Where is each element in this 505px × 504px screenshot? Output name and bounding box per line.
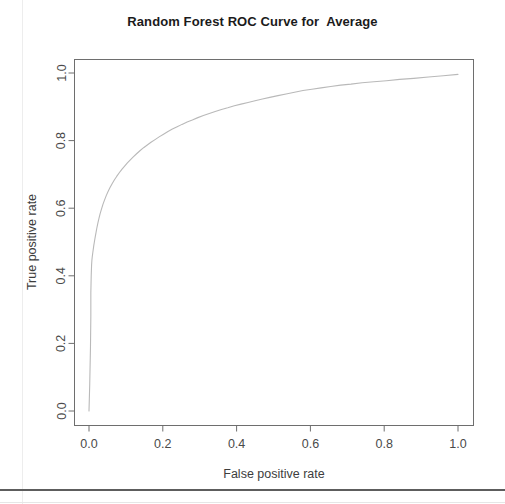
figure-canvas: Random Forest ROC Curve for Average 0.00… bbox=[0, 0, 505, 504]
y-tick-label: 1.0 bbox=[55, 64, 69, 81]
y-tick-label: 0.6 bbox=[55, 199, 69, 216]
y-tick-label: 0.4 bbox=[55, 267, 69, 284]
x-tick-label: 0.2 bbox=[154, 437, 171, 451]
page-bottom-rule-secondary bbox=[0, 502, 505, 503]
y-axis-ticks: 0.00.20.40.60.81.0 bbox=[55, 64, 75, 419]
x-tick-label: 0.8 bbox=[376, 437, 393, 451]
x-axis-ticks: 0.00.20.40.60.81.0 bbox=[80, 426, 466, 451]
x-tick-label: 0.6 bbox=[302, 437, 319, 451]
x-axis-label: False positive rate bbox=[223, 467, 324, 481]
y-tick-label: 0.0 bbox=[55, 402, 69, 419]
roc-plot: 0.00.20.40.60.81.0 0.00.20.40.60.81.0 Fa… bbox=[0, 0, 505, 504]
roc-curve-line bbox=[89, 74, 458, 411]
x-tick-label: 1.0 bbox=[449, 437, 466, 451]
y-tick-label: 0.8 bbox=[55, 132, 69, 149]
y-axis-label: True positive rate bbox=[25, 194, 39, 290]
plot-frame bbox=[75, 60, 474, 426]
x-tick-label: 0.4 bbox=[228, 437, 245, 451]
page-bottom-rule bbox=[0, 489, 505, 491]
x-tick-label: 0.0 bbox=[80, 437, 97, 451]
y-tick-label: 0.2 bbox=[55, 335, 69, 352]
